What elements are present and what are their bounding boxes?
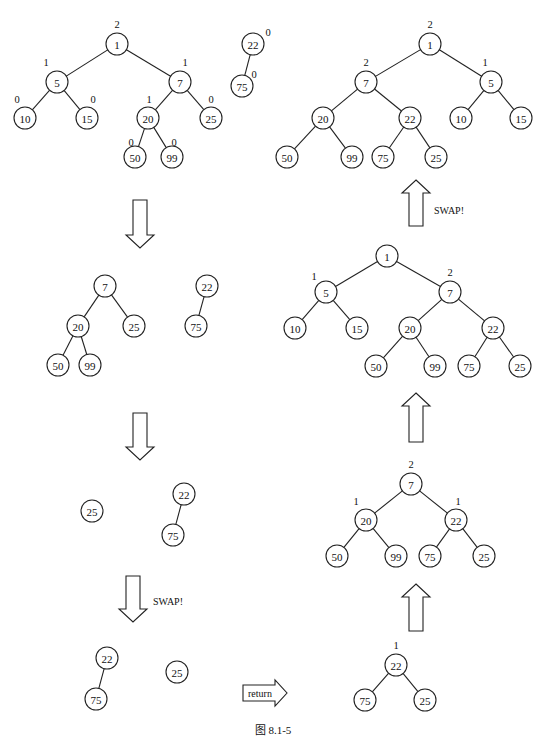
tree-node-7: 7	[355, 71, 377, 93]
node-value: 22	[391, 660, 402, 672]
tree-edge	[245, 55, 250, 76]
node-value: 25	[172, 667, 184, 679]
npl-label: 2	[427, 19, 432, 30]
npl-label: 0	[14, 94, 19, 105]
tree-edge	[416, 337, 429, 357]
arrow-up-swap: SWAP!	[402, 180, 464, 226]
node-value: 75	[378, 152, 390, 164]
node-value: 50	[371, 361, 383, 373]
node-value: 99	[85, 360, 97, 372]
node-value: 20	[405, 323, 417, 335]
npl-label: 2	[447, 267, 452, 278]
tree-node-7: 7	[169, 71, 191, 93]
node-value: 99	[347, 152, 359, 164]
tree-step1-left-heap	[32, 50, 204, 148]
npl-label: 1	[353, 496, 358, 507]
tree-edge	[383, 336, 402, 358]
tree-node-20: 20	[355, 509, 377, 531]
tree-node-10: 10	[284, 317, 306, 339]
tree-edge	[475, 337, 487, 356]
tree-edge	[499, 337, 513, 357]
tree-node-20: 20	[67, 315, 89, 337]
tree-node-75: 75	[162, 524, 184, 546]
node-value: 1	[427, 39, 433, 51]
tree-node-50: 50	[326, 545, 348, 567]
tree-node-25: 25	[81, 500, 103, 522]
tree-final-heap	[294, 50, 513, 149]
node-value: 50	[282, 152, 294, 164]
arrow-down-1	[126, 200, 154, 248]
tree-node-75: 75	[185, 315, 207, 337]
tree-node-15: 15	[76, 107, 98, 129]
tree-edge	[187, 90, 204, 109]
node-value: 75	[191, 321, 203, 333]
tree-edge	[439, 50, 481, 76]
npl-label: 0	[128, 137, 133, 148]
node-value: 99	[167, 152, 179, 164]
node-value: 20	[73, 321, 85, 333]
tree-node-75: 75	[372, 146, 394, 168]
tree-node-7: 7	[400, 473, 422, 495]
tree-node-75: 75	[458, 355, 480, 377]
tree-edge	[375, 89, 402, 111]
arrow-down-icon	[119, 576, 147, 622]
tree-edge	[458, 299, 484, 321]
tree-edge	[294, 126, 315, 149]
arrow-up-2	[402, 393, 430, 442]
tree-node-15: 15	[510, 107, 532, 129]
node-value: 75	[464, 361, 476, 373]
node-value: 10	[20, 113, 32, 125]
tree-edge	[64, 90, 80, 109]
node-value: 75	[237, 81, 249, 93]
tree-edge	[463, 529, 477, 548]
tree-node-22: 22	[445, 509, 467, 531]
tree-step2-right-heap	[199, 297, 204, 316]
node-value: 22	[248, 39, 259, 51]
tree-node-50: 50	[47, 354, 69, 376]
tree-node-22: 22	[385, 654, 407, 676]
node-value: 5	[323, 287, 329, 299]
tree-node-99: 99	[341, 146, 363, 168]
tree-node-5: 5	[315, 281, 337, 303]
npl-label: 1	[393, 640, 398, 651]
arrow-return: return	[243, 680, 287, 706]
tree-node-22: 22	[482, 317, 504, 339]
node-value: 25	[129, 321, 141, 333]
tree-node-22: 22	[96, 647, 118, 669]
tree-merge-result-3	[302, 261, 513, 357]
node-value: 15	[352, 323, 364, 335]
node-value: 75	[360, 695, 372, 707]
tree-node-1: 1	[419, 33, 441, 55]
node-value: 75	[91, 694, 103, 706]
npl-label: 2	[363, 57, 368, 68]
tree-node-25: 25	[425, 146, 447, 168]
tree-edge	[373, 528, 389, 547]
tree-node-75: 75	[85, 688, 107, 710]
arrow-down-icon	[126, 413, 154, 460]
node-value: 50	[53, 360, 65, 372]
tree-step1-right-heap	[245, 55, 250, 76]
tree-node-25: 25	[166, 661, 188, 683]
node-value: 99	[430, 361, 442, 373]
npl-label: 0	[90, 94, 95, 105]
node-value: 20	[318, 113, 330, 125]
tree-node-75: 75	[231, 75, 253, 97]
tree-edge	[99, 669, 104, 689]
tree-node-22: 22	[399, 107, 421, 129]
tree-node-20: 20	[399, 317, 421, 339]
tree-node-10: 10	[14, 107, 36, 129]
tree-node-25: 25	[473, 545, 495, 567]
tree-node-50: 50	[365, 355, 387, 377]
tree-step4-left-heap	[99, 669, 104, 689]
node-value: 20	[143, 113, 155, 125]
tree-node-50: 50	[276, 146, 298, 168]
node-value: 25	[87, 506, 99, 518]
tree-edge	[389, 127, 403, 148]
arrow-up-1	[402, 584, 430, 631]
tree-node-25: 25	[414, 689, 436, 711]
node-value: 15	[82, 113, 94, 125]
tree-node-99: 99	[385, 545, 407, 567]
node-value: 25	[431, 152, 443, 164]
node-value: 5	[488, 77, 494, 89]
tree-edge	[154, 127, 166, 147]
